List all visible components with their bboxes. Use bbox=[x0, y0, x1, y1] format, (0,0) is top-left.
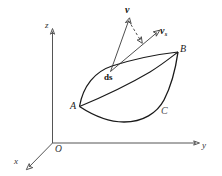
curve-upper-a-to-b bbox=[80, 52, 179, 107]
z-axis-label: z bbox=[45, 21, 49, 30]
surface-velocity-base-label: v bbox=[160, 25, 164, 36]
surface-velocity-subscript-label: s bbox=[165, 30, 168, 37]
vector-surface-diagram bbox=[0, 0, 222, 176]
x-axis-line bbox=[29, 143, 53, 167]
z-axis-arrowhead bbox=[50, 29, 54, 35]
y-axis-label: y bbox=[202, 141, 206, 150]
x-axis-label: x bbox=[14, 157, 18, 166]
velocity-component-arrowhead bbox=[137, 37, 142, 44]
point-c-label: C bbox=[161, 106, 168, 116]
velocity-vectors-group bbox=[111, 18, 160, 72]
point-b-label: B bbox=[180, 44, 186, 54]
surface-velocity-vector-label: vs bbox=[160, 21, 167, 37]
origin-label: O bbox=[55, 145, 62, 155]
point-a-label: A bbox=[70, 101, 76, 111]
figure-canvas: z y x O A B C ds v vs bbox=[0, 0, 222, 176]
axes-group bbox=[26, 29, 199, 170]
curve-middle-a-to-b bbox=[80, 52, 179, 107]
velocity-vector-label: v bbox=[125, 5, 129, 15]
arc-length-element-label: ds bbox=[104, 73, 113, 82]
